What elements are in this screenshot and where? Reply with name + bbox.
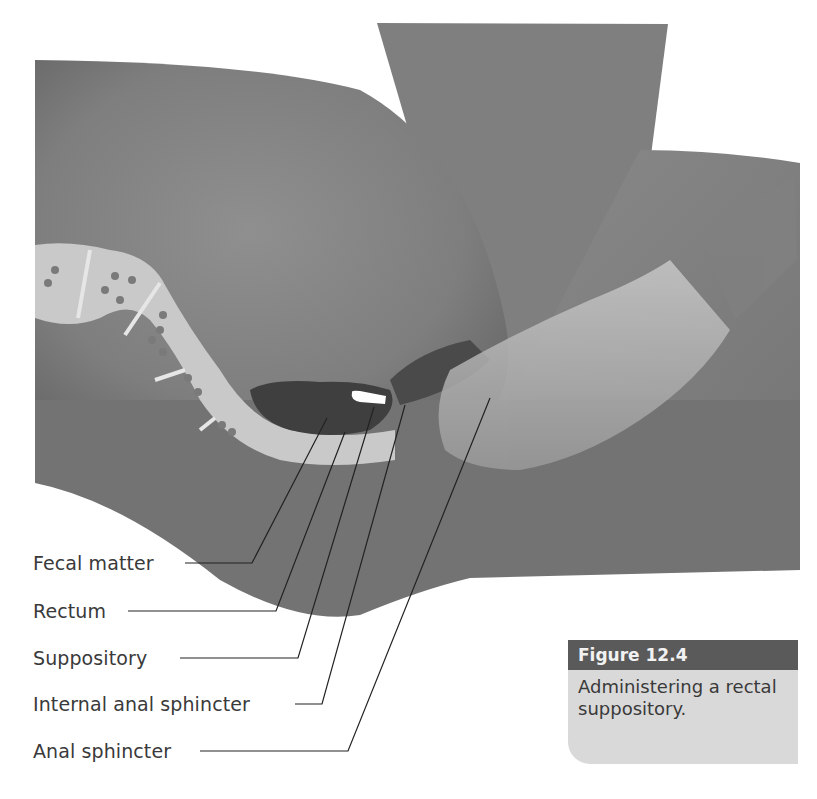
figure-caption-box: Figure 12.4 Administering a rectal suppo…	[568, 640, 798, 764]
figure-number-header: Figure 12.4	[568, 640, 798, 670]
label-internal-anal-sphincter: Internal anal sphincter	[33, 693, 250, 715]
label-suppository: Suppository	[33, 647, 147, 669]
label-rectum: Rectum	[33, 600, 106, 622]
label-anal-sphincter: Anal sphincter	[33, 740, 171, 762]
label-fecal-matter: Fecal matter	[33, 552, 154, 574]
figure-caption: Administering a rectal suppository.	[568, 670, 798, 726]
figure-number: Figure 12.4	[578, 645, 688, 665]
